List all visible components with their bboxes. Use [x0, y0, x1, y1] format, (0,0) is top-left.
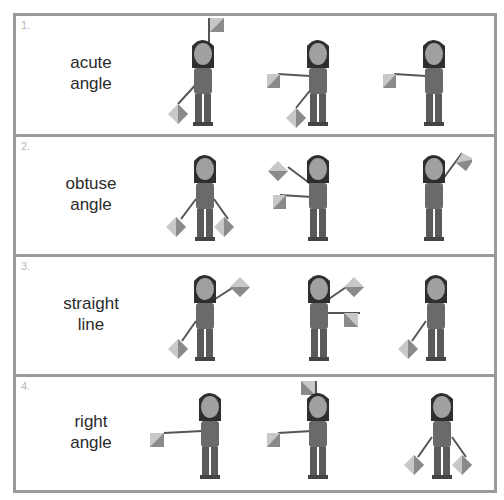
- label-line1: straight: [36, 293, 146, 314]
- semaphore-figure: [382, 137, 472, 255]
- label-line2: line: [36, 314, 146, 335]
- semaphore-figure: [382, 257, 472, 375]
- semaphore-figure: [156, 16, 246, 134]
- label-line2: angle: [36, 73, 146, 94]
- label-line1: obtuse: [36, 173, 146, 194]
- row-number: 3.: [21, 260, 30, 272]
- semaphore-figure: [266, 377, 356, 490]
- semaphore-figure: [266, 16, 356, 134]
- row-number: 2.: [21, 140, 30, 152]
- row-acute-angle: 1. acute angle: [16, 16, 494, 137]
- row-label: obtuse angle: [36, 173, 146, 215]
- row-number: 4.: [21, 380, 30, 392]
- label-line1: acute: [36, 52, 146, 73]
- semaphore-figure: [146, 377, 246, 490]
- semaphore-angles-diagram: 1. acute angle: [13, 13, 497, 493]
- label-line1: right: [36, 411, 146, 432]
- semaphore-figure: [382, 16, 472, 134]
- semaphore-figure: [266, 137, 356, 255]
- label-line2: angle: [36, 432, 146, 453]
- semaphore-figure: [156, 257, 256, 375]
- row-right-angle: 4. right angle: [16, 377, 494, 490]
- row-label: straight line: [36, 293, 146, 335]
- semaphore-figure: [396, 377, 486, 490]
- row-label: right angle: [36, 411, 146, 453]
- row-straight-line: 3. straight line: [16, 257, 494, 377]
- semaphore-figure: [296, 257, 386, 375]
- label-line2: angle: [36, 194, 146, 215]
- row-number: 1.: [21, 19, 30, 31]
- row-label: acute angle: [36, 52, 146, 94]
- row-obtuse-angle: 2. obtuse angle: [16, 137, 494, 257]
- semaphore-figure: [156, 137, 246, 255]
